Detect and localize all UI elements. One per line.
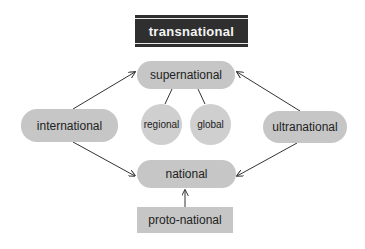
- edge-supernational-global: [198, 89, 205, 104]
- edge-international-national: [73, 142, 135, 176]
- node-label: ultranational: [272, 120, 337, 134]
- edge-ultranational-supernational: [237, 72, 300, 111]
- node-label: national: [165, 167, 207, 181]
- node-transnational: transnational: [135, 15, 248, 47]
- edge-international-supernational: [73, 72, 135, 109]
- node-regional: regional: [141, 104, 182, 145]
- node-global: global: [190, 104, 231, 145]
- node-proto-national: proto-national: [137, 207, 233, 233]
- node-label: global: [197, 119, 224, 130]
- node-label: transnational: [149, 24, 235, 39]
- node-supernational: supernational: [137, 61, 235, 89]
- node-national: national: [137, 160, 236, 188]
- edge-supernational-regional: [165, 89, 172, 104]
- node-label: supernational: [150, 68, 222, 82]
- node-international: international: [21, 109, 118, 142]
- node-label: regional: [144, 119, 180, 130]
- node-label: international: [37, 119, 102, 133]
- node-ultranational: ultranational: [263, 111, 347, 143]
- node-label: proto-national: [148, 213, 221, 227]
- edge-ultranational-national: [237, 143, 297, 176]
